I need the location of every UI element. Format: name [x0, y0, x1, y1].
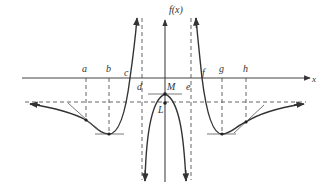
label-h: h [243, 63, 248, 74]
label-a: a [82, 63, 87, 74]
point-inflection-h [244, 120, 247, 123]
point-M [163, 92, 167, 96]
x-axis-label: x [311, 74, 316, 84]
curve-left-tail-arrow [30, 104, 40, 105]
label-f: f [202, 67, 206, 78]
tangent-at-h [234, 105, 264, 133]
label-c: c [124, 67, 129, 78]
point-L [163, 101, 167, 105]
tangent-at-a [68, 103, 98, 130]
label-g: g [219, 63, 224, 74]
label-b: b [106, 63, 111, 74]
y-axis-label: f(x) [169, 4, 184, 16]
label-L: L [157, 104, 164, 115]
label-e: e [186, 81, 191, 92]
label-M: M [166, 81, 176, 92]
curve-right-top-arrow [196, 18, 197, 28]
curve-right-tail-arrow [294, 104, 304, 105]
curve-right-branch [196, 18, 302, 134]
graph-canvas: f(x) x a b c d e f g h M L [0, 0, 329, 187]
point-min-b [107, 132, 110, 135]
point-inflection-a [84, 118, 87, 121]
point-min-g [220, 132, 223, 135]
function-graph-figure: f(x) x a b c d e f g h M L [0, 0, 329, 187]
